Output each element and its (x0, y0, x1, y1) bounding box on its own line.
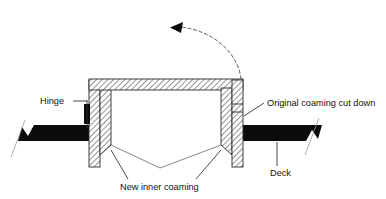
right-inner-coaming (221, 88, 232, 155)
hatch-coaming-diagram: Hinge Original coaming cut down Deck New… (0, 0, 386, 199)
left-inner-coaming (100, 88, 111, 155)
left-outer-post (89, 80, 100, 167)
diagram-canvas: Hinge Original coaming cut down Deck New… (0, 0, 386, 199)
right-outer-post (232, 80, 243, 167)
hinge-block (84, 100, 90, 128)
label-new-inner-coaming: New inner coaming (120, 182, 199, 192)
label-deck: Deck (270, 168, 291, 178)
label-hinge: Hinge (40, 96, 64, 106)
label-original-coaming: Original coaming cut down (267, 98, 375, 108)
hatch-lid (89, 79, 243, 90)
